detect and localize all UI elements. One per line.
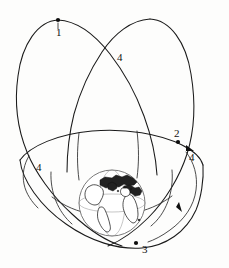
earth-island-speck-1 xyxy=(138,219,140,221)
orbit-node-dot-1 xyxy=(56,18,60,22)
inner-meridian-left xyxy=(78,133,80,180)
direction-arrow-lower-right-icon xyxy=(176,202,182,212)
orbit-node-dot-3 xyxy=(134,241,138,245)
orbit-diagram-canvas xyxy=(0,0,229,268)
orbit-node-dot-2 xyxy=(176,140,180,144)
earth-landmass-europe xyxy=(121,188,131,197)
right-orbit-secondary-tail xyxy=(148,152,197,242)
orbit-label-2: 2 xyxy=(174,128,180,139)
orbit-label-3: 3 xyxy=(142,244,148,255)
right-loop-orbit-return xyxy=(67,19,150,172)
inner-meridian-right xyxy=(137,131,139,178)
orbit-diagram-figure: 1 4 2 4 4 3 xyxy=(0,0,229,268)
orbit-label-4-top: 4 xyxy=(117,52,123,63)
orbit-label-4-left: 4 xyxy=(36,162,42,173)
earth-island-speck-2 xyxy=(117,190,119,192)
orbit-label-4-right: 4 xyxy=(189,152,195,163)
left-loop-orbit-return xyxy=(58,20,157,175)
orbit-label-1: 1 xyxy=(56,27,62,38)
earth-island-speck-3 xyxy=(130,188,132,190)
